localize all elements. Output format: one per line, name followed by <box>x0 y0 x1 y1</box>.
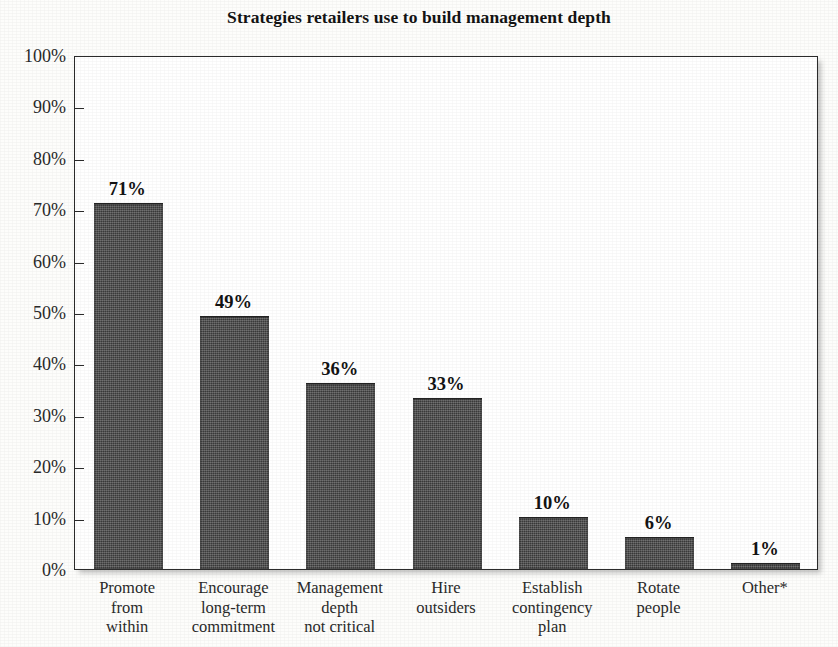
bar <box>519 517 588 569</box>
y-axis-tick-mark <box>75 108 84 109</box>
x-axis-category-label: Hireoutsiders <box>389 578 503 617</box>
y-axis-tick-label: 100% <box>0 46 66 67</box>
x-axis-category-line: outsiders <box>389 598 503 618</box>
chart-title: Strategies retailers use to build manage… <box>0 7 838 28</box>
bar-value-label: 36% <box>285 359 394 380</box>
y-axis-tick-mark <box>75 468 84 469</box>
bar <box>625 537 694 569</box>
y-axis-tick-mark <box>75 263 84 264</box>
y-axis-tick-label: 90% <box>0 97 66 118</box>
y-axis-tick-mark <box>75 314 84 315</box>
x-axis-category-line: from <box>70 598 184 618</box>
bar <box>200 316 269 569</box>
x-axis-category-label: Other* <box>708 578 822 598</box>
x-axis-category-line: Management <box>283 578 397 598</box>
bar-value-label: 1% <box>710 539 819 560</box>
x-axis-category-line: commitment <box>176 617 290 637</box>
y-axis-tick-mark <box>75 520 84 521</box>
y-axis-tick-label: 30% <box>0 405 66 426</box>
x-axis-category-line: Other* <box>708 578 822 598</box>
y-axis-tick-mark <box>75 211 84 212</box>
y-axis-tick-label: 40% <box>0 354 66 375</box>
bar-value-label: 49% <box>179 292 288 313</box>
bar <box>94 203 163 569</box>
bar <box>731 563 800 569</box>
y-axis-tick-label: 60% <box>0 251 66 272</box>
x-axis-category-label: Encouragelong-termcommitment <box>176 578 290 637</box>
bar-value-label: 10% <box>498 493 607 514</box>
x-axis-category-line: Rotate <box>601 578 715 598</box>
x-axis-category-line: depth <box>283 598 397 618</box>
bar <box>306 383 375 569</box>
y-axis-tick-mark <box>75 160 84 161</box>
x-axis-category-line: not critical <box>283 617 397 637</box>
bar <box>413 398 482 569</box>
y-axis-tick-mark <box>75 417 84 418</box>
x-axis-category-line: plan <box>495 617 609 637</box>
x-axis-category-label: Establishcontingencyplan <box>495 578 609 637</box>
x-axis-category-line: people <box>601 598 715 618</box>
x-axis-category-line: contingency <box>495 598 609 618</box>
y-axis-tick-label: 70% <box>0 200 66 221</box>
x-axis-category-label: Promotefromwithin <box>70 578 184 637</box>
y-axis-tick-label: 80% <box>0 148 66 169</box>
bar-value-label: 6% <box>604 513 713 534</box>
y-axis-tick-label: 10% <box>0 508 66 529</box>
y-axis-tick-mark <box>75 365 84 366</box>
x-axis-category-line: Encourage <box>176 578 290 598</box>
bar-value-label: 33% <box>392 374 501 395</box>
x-axis-category-line: Establish <box>495 578 609 598</box>
y-axis-tick-label: 20% <box>0 457 66 478</box>
x-axis-category-line: Promote <box>70 578 184 598</box>
x-axis-category-line: Hire <box>389 578 503 598</box>
x-axis-category-label: Managementdepthnot critical <box>283 578 397 637</box>
bar-value-label: 71% <box>73 179 182 200</box>
x-axis-category-line: long-term <box>176 598 290 618</box>
y-axis-tick-label: 0% <box>0 560 66 581</box>
x-axis-category-label: Rotatepeople <box>601 578 715 617</box>
x-axis-category-line: within <box>70 617 184 637</box>
y-axis-tick-label: 50% <box>0 303 66 324</box>
